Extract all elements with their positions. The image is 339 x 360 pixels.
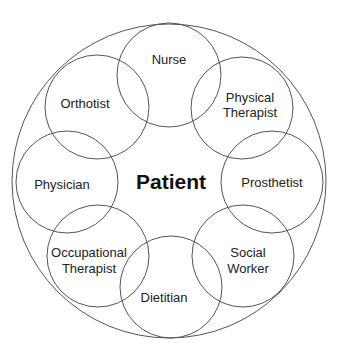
- label-physical-therapist-line2: Therapist: [223, 105, 278, 120]
- circle-orthotist: Orthotist: [45, 55, 149, 159]
- circle-physician: Physician: [16, 131, 118, 233]
- circle-social-worker: Social Worker: [192, 205, 294, 307]
- label-occupational-therapist-line2: Therapist: [62, 261, 117, 276]
- label-physician: Physician: [34, 177, 90, 192]
- label-patient: Patient: [136, 170, 206, 193]
- circle-prosthetist: Prosthetist: [221, 131, 323, 233]
- label-prosthetist: Prosthetist: [241, 175, 303, 190]
- care-team-diagram: Nurse Physical Therapist Prosthetist Soc…: [0, 0, 339, 360]
- label-orthotist: Orthotist: [60, 96, 110, 111]
- circle-physical-therapist: Physical Therapist: [191, 57, 293, 159]
- label-social-worker-line1: Social: [230, 245, 266, 260]
- label-occupational-therapist-line1: Occupational: [51, 245, 127, 260]
- circle-dietitian: Dietitian: [120, 236, 222, 338]
- circle-occupational-therapist: Occupational Therapist: [47, 205, 149, 307]
- label-social-worker-line2: Worker: [227, 261, 269, 276]
- label-nurse: Nurse: [152, 52, 187, 67]
- label-dietitian: Dietitian: [141, 290, 188, 305]
- circle-nurse: Nurse: [117, 23, 221, 127]
- label-physical-therapist-line1: Physical: [226, 90, 275, 105]
